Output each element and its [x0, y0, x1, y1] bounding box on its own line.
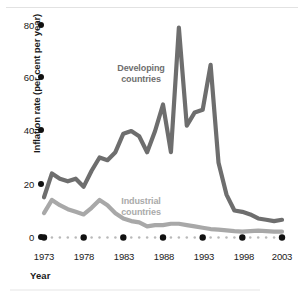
x-axis-minor-dot [170, 236, 173, 239]
x-axis-minor-dot [138, 236, 141, 239]
x-axis-minor-dot [106, 236, 109, 239]
x-axis-minor-dot [233, 236, 236, 239]
x-axis-major-dot [239, 234, 245, 240]
x-axis-minor-dot [114, 236, 117, 239]
x-axis-major-dot [160, 234, 166, 240]
x-axis-title: Year [30, 270, 50, 281]
inflation-rate-chart: Inflation rate (per cent per year) 80 60… [0, 0, 303, 294]
x-axis-major-dot [120, 234, 126, 240]
x-axis-major-dot [199, 234, 205, 240]
industrial-countries-label: Industrial countries [104, 196, 178, 217]
y-tick-label-60: 60 [12, 72, 34, 83]
x-axis-minor-dot [130, 236, 133, 239]
y-tick-label-0: 0 [12, 232, 34, 243]
x-axis-minor-dot [90, 236, 93, 239]
scan-artifact-bottom [10, 289, 260, 291]
x-tick-label-1998: 1998 [227, 251, 261, 262]
x-axis-dotted-line [41, 234, 285, 240]
y-tick-dot-0 [38, 234, 44, 240]
x-tick-label-1978: 1978 [67, 251, 101, 262]
x-axis-minor-dot [257, 236, 260, 239]
x-axis-minor-dot [67, 236, 70, 239]
x-axis-minor-dot [265, 236, 268, 239]
series-line-developing [44, 28, 282, 221]
x-axis-minor-dot [146, 236, 149, 239]
x-axis-minor-dot [51, 236, 54, 239]
x-axis-minor-dot [74, 236, 77, 239]
y-tick-dot-20 [38, 181, 44, 187]
developing-countries-label: Developing countries [104, 63, 178, 84]
scan-artifact-top [6, 7, 298, 8]
y-tick-label-20: 20 [12, 179, 34, 190]
x-tick-label-1973: 1973 [27, 251, 61, 262]
plot-area [0, 0, 303, 294]
x-axis-minor-dot [98, 236, 101, 239]
x-axis-minor-dot [193, 236, 196, 239]
x-axis-major-dot [80, 234, 86, 240]
x-tick-label-1983: 1983 [107, 251, 141, 262]
y-tick-label-80: 80 [12, 20, 34, 31]
x-axis-minor-dot [154, 236, 157, 239]
y-tick-dot-40 [38, 127, 44, 133]
x-axis-minor-dot [186, 236, 189, 239]
x-tick-label-2003: 2003 [265, 251, 299, 262]
x-axis-major-dot [279, 234, 285, 240]
y-tick-dot-60 [38, 74, 44, 80]
x-axis-minor-dot [178, 236, 181, 239]
x-axis-minor-dot [273, 236, 276, 239]
x-tick-label-1993: 1993 [187, 251, 221, 262]
y-tick-label-40: 40 [12, 125, 34, 136]
x-axis-minor-dot [209, 236, 212, 239]
x-axis-minor-dot [249, 236, 252, 239]
x-axis-minor-dot [59, 236, 62, 239]
x-axis-minor-dot [217, 236, 220, 239]
x-tick-label-1988: 1988 [147, 251, 181, 262]
y-tick-dot-80 [38, 22, 44, 28]
x-axis-minor-dot [225, 236, 228, 239]
